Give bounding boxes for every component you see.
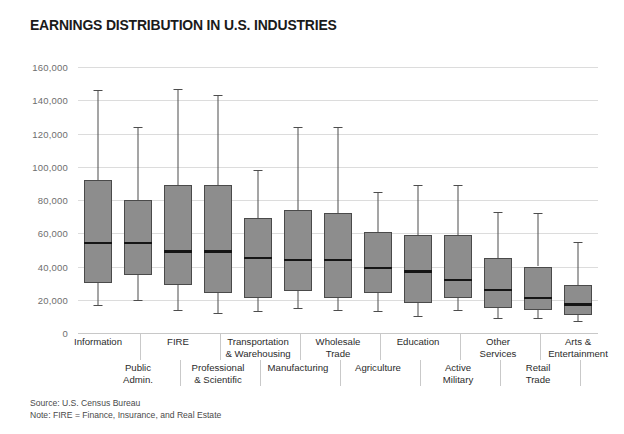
whisker-cap-upper xyxy=(174,89,183,90)
box-plot-6 xyxy=(284,67,312,333)
whisker-cap-upper xyxy=(414,185,423,186)
whisker-lower xyxy=(418,303,419,316)
whisker-upper xyxy=(138,127,139,200)
x-axis-label-3: FIRE xyxy=(136,336,220,348)
box-plot-2 xyxy=(124,67,152,333)
median-line xyxy=(364,267,392,270)
whisker-lower xyxy=(458,298,459,310)
x-axis-label-10: ActiveMilitary xyxy=(416,362,500,385)
whisker-cap-upper xyxy=(94,90,103,91)
x-axis-label-9: Education xyxy=(376,336,460,348)
whisker-lower xyxy=(258,298,259,311)
x-axis-label-13: Arts &Entertainment xyxy=(536,336,620,359)
y-axis-tick-label: 60,000 xyxy=(38,228,68,239)
footnote-note: Note: FIRE = Finance, Insurance, and Rea… xyxy=(30,410,221,422)
median-line xyxy=(164,250,192,253)
x-axis-label-4: Professional& Scientific xyxy=(176,362,260,385)
label-separator xyxy=(580,360,581,386)
median-line xyxy=(244,257,272,260)
box-plot-12 xyxy=(524,67,552,333)
x-axis-label-2: PublicAdmin. xyxy=(96,362,180,385)
iqr-box xyxy=(324,213,352,298)
whisker-lower xyxy=(178,285,179,310)
median-line xyxy=(484,289,512,292)
whisker-cap-lower xyxy=(174,310,183,311)
whisker-cap-lower xyxy=(134,300,143,301)
x-axis-label-6: Manufacturing xyxy=(256,362,340,374)
whisker-lower xyxy=(538,310,539,318)
iqr-box xyxy=(564,285,592,315)
box-plot-9 xyxy=(404,67,432,333)
footnote-source: Source: U.S. Census Bureau xyxy=(30,398,221,410)
median-line xyxy=(84,242,112,245)
y-axis-tick-label: 80,000 xyxy=(38,195,68,206)
whisker-upper xyxy=(418,185,419,235)
x-axis-label-1: Information xyxy=(56,336,140,348)
box-plot-7 xyxy=(324,67,352,333)
whisker-cap-upper xyxy=(494,212,503,213)
y-axis-tick-label: 140,000 xyxy=(32,95,68,106)
whisker-upper xyxy=(578,242,579,285)
whisker-cap-upper xyxy=(534,213,543,214)
page-title: EARNINGS DISTRIBUTION IN U.S. INDUSTRIES xyxy=(30,16,337,34)
box-plot-11 xyxy=(484,67,512,333)
whisker-cap-upper xyxy=(334,127,343,128)
median-line xyxy=(284,259,312,262)
whisker-cap-lower xyxy=(454,310,463,311)
box-plot-5 xyxy=(244,67,272,333)
iqr-box xyxy=(204,185,232,293)
whisker-upper xyxy=(298,127,299,210)
iqr-box xyxy=(524,267,552,310)
whisker-cap-lower xyxy=(494,318,503,319)
y-axis-tick-label: 40,000 xyxy=(38,261,68,272)
median-line xyxy=(124,242,152,245)
median-line xyxy=(444,279,472,282)
whisker-cap-lower xyxy=(574,321,583,322)
whisker-upper xyxy=(538,213,539,266)
plot-area xyxy=(78,67,598,333)
whisker-upper xyxy=(258,170,259,218)
box-plot-4 xyxy=(204,67,232,333)
x-axis-label-12: RetailTrade xyxy=(496,362,580,385)
whisker-cap-upper xyxy=(454,185,463,186)
earnings-box-plot-chart: EARNINGS DISTRIBUTION IN U.S. INDUSTRIES… xyxy=(0,0,624,434)
iqr-box xyxy=(484,258,512,308)
median-line xyxy=(564,303,592,306)
whisker-cap-lower xyxy=(534,318,543,319)
footnotes: Source: U.S. Census Bureau Note: FIRE = … xyxy=(30,398,221,421)
whisker-lower xyxy=(98,283,99,305)
whisker-upper xyxy=(498,212,499,259)
x-axis-category-labels: InformationPublicAdmin.FIREProfessional&… xyxy=(78,334,598,396)
iqr-box xyxy=(364,232,392,294)
whisker-cap-lower xyxy=(414,316,423,317)
whisker-cap-upper xyxy=(374,192,383,193)
whisker-cap-upper xyxy=(214,95,223,96)
box-plot-8 xyxy=(364,67,392,333)
whisker-lower xyxy=(338,298,339,310)
x-axis-label-5: Transportation& Warehousing xyxy=(216,336,300,359)
whisker-cap-lower xyxy=(374,311,383,312)
y-axis-labels: 020,00040,00060,00080,000100,000120,0001… xyxy=(0,67,72,333)
whisker-upper xyxy=(458,185,459,235)
whisker-cap-upper xyxy=(254,170,263,171)
y-axis-tick-label: 120,000 xyxy=(32,128,68,139)
whisker-cap-lower xyxy=(334,310,343,311)
median-line xyxy=(404,270,432,273)
whisker-cap-lower xyxy=(94,305,103,306)
whisker-lower xyxy=(138,275,139,300)
x-axis-label-8: Agriculture xyxy=(336,362,420,374)
whisker-upper xyxy=(338,127,339,213)
box-plot-10 xyxy=(444,67,472,333)
whisker-lower xyxy=(218,293,219,313)
whisker-upper xyxy=(378,192,379,232)
whisker-cap-lower xyxy=(214,313,223,314)
median-line xyxy=(324,259,352,262)
y-axis-tick-label: 100,000 xyxy=(32,161,68,172)
iqr-box xyxy=(124,200,152,275)
y-axis-tick-label: 20,000 xyxy=(38,294,68,305)
x-axis-label-11: OtherServices xyxy=(456,336,540,359)
whisker-upper xyxy=(178,89,179,185)
whisker-cap-upper xyxy=(574,242,583,243)
box-plot-13 xyxy=(564,67,592,333)
iqr-box xyxy=(284,210,312,291)
